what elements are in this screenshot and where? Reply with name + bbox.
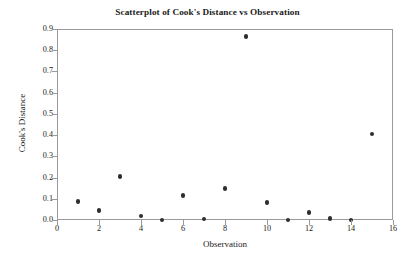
x-axis-title: Observation <box>57 239 393 249</box>
data-point <box>244 34 248 38</box>
x-axis-tick-label: 6 <box>171 224 195 233</box>
x-axis-tick-mark <box>309 220 310 225</box>
y-axis-tick-mark <box>52 178 57 179</box>
x-axis-tick-label: 0 <box>45 224 69 233</box>
data-point <box>118 174 122 178</box>
data-point <box>307 210 311 214</box>
data-point <box>370 132 374 136</box>
y-axis-tick-mark <box>52 50 57 51</box>
x-axis-tick-mark <box>57 220 58 225</box>
y-axis-tick-label: 0.0 <box>31 216 53 224</box>
x-axis-tick-label: 14 <box>339 224 363 233</box>
data-point <box>181 193 185 197</box>
data-point <box>265 200 269 204</box>
x-axis-tick-mark <box>351 220 352 225</box>
x-axis-tick-label: 2 <box>87 224 111 233</box>
y-axis-tick-label: 0.4 <box>31 131 53 139</box>
data-point <box>76 199 80 203</box>
y-axis-tick-label: 0.9 <box>31 25 53 33</box>
x-axis-tick-mark <box>267 220 268 225</box>
scatterplot-figure: Scatterplot of Cook's Distance vs Observ… <box>0 0 415 266</box>
y-axis-tick-label: 0.3 <box>31 152 53 160</box>
y-axis-tick-mark <box>52 199 57 200</box>
data-point <box>97 208 101 212</box>
x-axis-tick-mark <box>99 220 100 225</box>
y-axis-tick-label: 0.8 <box>31 46 53 54</box>
x-axis-tick-label: 12 <box>297 224 321 233</box>
y-axis-tick-label: 0.1 <box>31 195 53 203</box>
data-point <box>328 216 332 220</box>
x-axis-tick-mark <box>225 220 226 225</box>
y-axis-title: Cook's Distance <box>17 63 27 183</box>
x-axis-tick-label: 8 <box>213 224 237 233</box>
x-axis-tick-label: 10 <box>255 224 279 233</box>
x-axis-tick-mark <box>183 220 184 225</box>
y-axis-tick-label: 0.7 <box>31 67 53 75</box>
plot-data-area <box>57 29 393 220</box>
data-point <box>160 218 164 222</box>
x-axis-tick-mark <box>141 220 142 225</box>
y-axis-tick-label: 0.5 <box>31 110 53 118</box>
y-axis-tick-label: 0.6 <box>31 89 53 97</box>
chart-title: Scatterplot of Cook's Distance vs Observ… <box>0 7 415 17</box>
y-axis-tick-mark <box>52 135 57 136</box>
y-axis-tick-mark <box>52 71 57 72</box>
y-axis-tick-mark <box>52 29 57 30</box>
data-point <box>223 186 227 190</box>
y-axis-tick-mark <box>52 156 57 157</box>
y-axis-tick-label: 0.2 <box>31 174 53 182</box>
x-axis-tick-label: 16 <box>381 224 405 233</box>
x-axis-tick-mark <box>393 220 394 225</box>
data-point <box>202 217 206 221</box>
data-point <box>139 214 143 218</box>
y-axis-tick-mark <box>52 93 57 94</box>
data-point <box>286 218 290 222</box>
x-axis-tick-label: 4 <box>129 224 153 233</box>
y-axis-tick-mark <box>52 114 57 115</box>
